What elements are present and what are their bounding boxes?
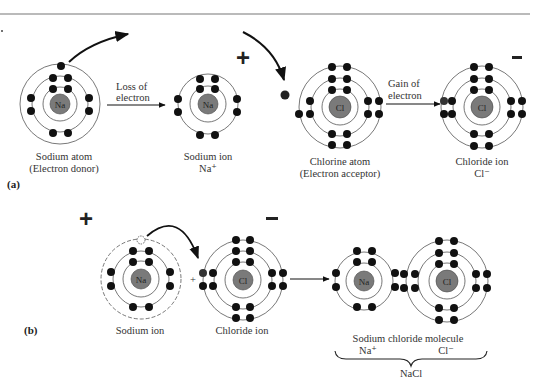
nucleus-symbol: Na xyxy=(203,100,214,110)
chloride-ion-formula: Cl⁻ xyxy=(474,168,489,179)
na-symbol: Na xyxy=(359,277,370,287)
ionic-bond-diagram: Na Sodium atom (Electron donor) (a) Loss… xyxy=(0,0,547,387)
brace xyxy=(335,351,487,366)
nucleus-symbol: Cl xyxy=(239,276,248,286)
chloride-ion-caption: Chloride ion xyxy=(456,156,510,167)
negative-charge-sign xyxy=(512,56,522,59)
sodium-atom-caption-2: (Electron donor) xyxy=(29,163,99,175)
nucleus-symbol: Na xyxy=(136,275,147,285)
vacated-electron xyxy=(137,236,145,244)
nucleus-symbol: Na xyxy=(55,100,66,110)
negative-charge-sign-b xyxy=(266,217,278,220)
loss-label: Loss of xyxy=(116,81,148,92)
positive-charge-sign: + xyxy=(236,44,250,71)
panel-a-label: (a) xyxy=(7,178,20,191)
corner-mark xyxy=(1,30,3,32)
cl-symbol: Cl xyxy=(443,277,452,287)
nucleus-symbol: Cl xyxy=(478,103,487,113)
sodium-ion-formula: Na⁺ xyxy=(199,163,217,174)
molecule-formula: NaCl xyxy=(400,368,422,379)
sodium-chloride-molecule: Na Cl xyxy=(332,237,491,324)
transferred-electron xyxy=(281,91,290,100)
chlorine-atom-caption-2: (Electron acceptor) xyxy=(300,168,381,180)
electron-transfer-arrow-b xyxy=(147,226,198,258)
chlorine-atom: Cl xyxy=(295,63,383,149)
gain-label-2: electron xyxy=(388,90,423,101)
chloride-ion-b-caption: Chloride ion xyxy=(216,325,270,336)
nucleus-symbol: Cl xyxy=(336,103,345,113)
chloride-ion-b: Cl xyxy=(199,236,287,322)
sodium-ion-caption: Sodium ion xyxy=(184,151,233,162)
sodium-atom-caption: Sodium atom xyxy=(36,151,92,162)
electron-transfer-arrow-left xyxy=(69,34,128,62)
molecule-caption: Sodium chloride molecule xyxy=(353,333,464,344)
sodium-ion-b-caption: Sodium ion xyxy=(116,325,165,336)
panel-b-label: (b) xyxy=(24,324,38,337)
loss-label-2: electron xyxy=(116,92,151,103)
chloride-ion: Cl xyxy=(440,63,526,150)
sodium-atom: Na xyxy=(20,62,100,144)
sodium-ion: Na xyxy=(174,74,241,139)
sodium-ion-b: Na xyxy=(101,236,181,319)
molecule-cl-label: Cl⁻ xyxy=(438,345,453,356)
positive-charge-sign-b: + xyxy=(79,205,93,232)
chlorine-atom-caption: Chlorine atom xyxy=(310,156,370,167)
plus-sign-b: + xyxy=(190,274,196,285)
molecule-na-label: Na⁺ xyxy=(359,345,377,356)
gain-label: Gain of xyxy=(388,78,420,89)
